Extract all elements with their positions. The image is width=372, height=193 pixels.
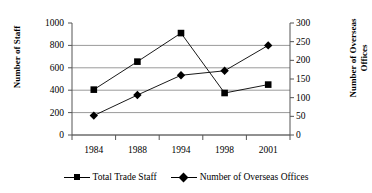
y-axis-right-title: Number of Overseas Offices [348, 6, 370, 110]
legend-label-number-of-overseas-offices: Number of Overseas Offices [200, 172, 309, 182]
square-marker-icon [64, 172, 90, 182]
legend-label-total-trade-staff: Total Trade Staff [93, 172, 157, 182]
series-line-diamond [94, 45, 268, 115]
y-left-label-0: 0 [59, 130, 64, 140]
x-label-1988: 1988 [128, 145, 147, 155]
chart-container: Number of Staff Number of Overseas Offic… [0, 0, 372, 193]
diamond-marker-icon [171, 172, 197, 182]
data-point-square-1984 [91, 86, 98, 93]
y-right-label-300: 300 [296, 18, 310, 28]
chart-legend: Total Trade Staff Number of Overseas Off… [0, 172, 372, 182]
data-point-square-1994 [178, 30, 185, 37]
series-line-square [94, 33, 268, 93]
y-right-label-0: 0 [296, 130, 301, 140]
y-axis-left-ticks: 10008006004002000 [24, 0, 64, 193]
y-left-label-200: 200 [50, 108, 64, 118]
data-point-diamond-1994 [177, 71, 185, 79]
y-left-label-600: 600 [50, 63, 64, 73]
y-left-label-400: 400 [50, 85, 64, 95]
data-point-square-1988 [134, 58, 141, 65]
y-left-label-1000: 1000 [45, 18, 64, 28]
y-right-label-200: 200 [296, 55, 310, 65]
legend-item-number-of-overseas-offices: Number of Overseas Offices [171, 172, 309, 182]
y-left-label-800: 800 [50, 40, 64, 50]
y-right-label-100: 100 [296, 93, 310, 103]
x-label-1994: 1994 [172, 145, 191, 155]
data-point-square-1998 [221, 90, 228, 97]
x-label-1984: 1984 [84, 145, 103, 155]
y-axis-right-ticks: 300250200150100500 [296, 0, 332, 193]
y-right-label-250: 250 [296, 37, 310, 47]
legend-item-total-trade-staff: Total Trade Staff [64, 172, 157, 182]
data-point-square-2001 [265, 81, 272, 88]
y-axis-left-title: Number of Staff [12, 9, 22, 105]
x-label-2001: 2001 [259, 145, 278, 155]
data-point-diamond-2001 [264, 41, 272, 49]
y-right-label-50: 50 [296, 111, 306, 121]
y-right-label-150: 150 [296, 74, 310, 84]
data-point-diamond-1988 [133, 91, 141, 99]
x-label-1998: 1998 [215, 145, 234, 155]
